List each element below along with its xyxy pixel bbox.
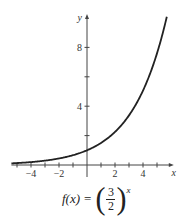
function-label: f(x) = ( 3 2 ) x bbox=[62, 182, 142, 216]
x-tick-label: 2 bbox=[113, 168, 118, 179]
y-axis-label: y bbox=[77, 12, 83, 23]
x-tick-label: −2 bbox=[54, 168, 65, 179]
fraction: 3 2 bbox=[106, 186, 115, 213]
x-axis-label: x bbox=[171, 167, 177, 178]
numerator: 3 bbox=[108, 186, 114, 199]
equals-sign: = bbox=[84, 191, 91, 207]
x-tick-label: −4 bbox=[26, 168, 37, 179]
left-paren: ( bbox=[95, 183, 105, 215]
y-axis-arrow bbox=[85, 14, 89, 19]
axes: −4−22448xy bbox=[11, 12, 176, 179]
y-tick-label: 4 bbox=[77, 101, 82, 112]
exponent: x bbox=[126, 185, 130, 195]
exponential-curve bbox=[11, 17, 166, 164]
right-paren: ) bbox=[116, 183, 126, 215]
denominator: 2 bbox=[108, 200, 114, 213]
y-tick-label: 8 bbox=[77, 42, 82, 53]
x-tick-label: 4 bbox=[141, 168, 146, 179]
function-name: f(x) bbox=[62, 191, 80, 207]
